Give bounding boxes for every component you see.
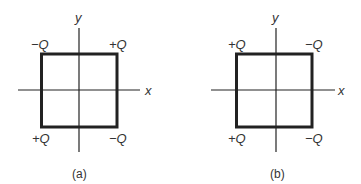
charge-top-right: −Q [305,37,323,52]
charge-top-left: +Q [228,37,246,52]
charge-bottom-left: +Q [32,131,50,146]
charge-configurations-diagram: y x −Q +Q +Q −Q (a) y x +Q −Q +Q −Q (b) [0,0,361,184]
charge-bottom-left: +Q [228,131,246,146]
x-axis-label: x [144,83,152,98]
y-axis-label: y [74,10,83,25]
x-axis-label: x [337,83,345,98]
caption-b: (b) [270,167,285,181]
y-axis-label: y [271,10,280,25]
charge-top-right: +Q [109,37,127,52]
charge-bottom-right: −Q [305,131,323,146]
caption-a: (a) [72,167,87,181]
figure-b: y x +Q −Q +Q −Q (b) [211,10,345,181]
figure-a: y x −Q +Q +Q −Q (a) [18,10,152,181]
charge-top-left: −Q [31,37,49,52]
charge-bottom-right: −Q [109,131,127,146]
